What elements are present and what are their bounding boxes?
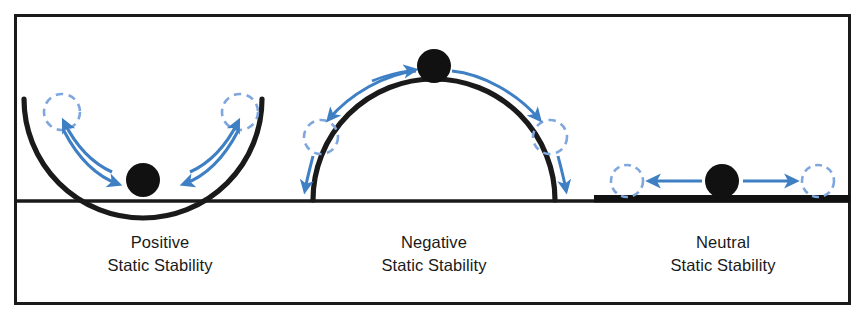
- ghost-ball-right: [802, 165, 834, 197]
- motion-arrow-right-continue: [558, 156, 566, 190]
- ball: [126, 163, 160, 197]
- convex-dome-surface: [313, 79, 555, 200]
- ball: [705, 164, 739, 198]
- panel-negative-static-stability: Negative Static Stability: [304, 49, 567, 274]
- panel-neutral-static-stability: Neutral Static Stability: [594, 164, 850, 274]
- panel-label-line2: Static Stability: [381, 256, 487, 274]
- panel-label-line2: Static Stability: [670, 256, 776, 274]
- panel-label-line2: Static Stability: [107, 256, 213, 274]
- ghost-ball-left: [611, 165, 643, 197]
- panel-label-line1: Positive: [131, 233, 190, 251]
- static-stability-figure: Positive Static Stability Negative Stati…: [0, 0, 866, 317]
- panel-label-line1: Negative: [401, 233, 467, 251]
- panel-label-line1: Neutral: [696, 233, 750, 251]
- ghost-ball-right: [222, 94, 258, 130]
- panel-positive-static-stability: Positive Static Stability: [24, 94, 262, 274]
- ball: [417, 49, 451, 83]
- ghost-ball-left: [44, 94, 80, 130]
- diagram-canvas: Positive Static Stability Negative Stati…: [0, 0, 866, 317]
